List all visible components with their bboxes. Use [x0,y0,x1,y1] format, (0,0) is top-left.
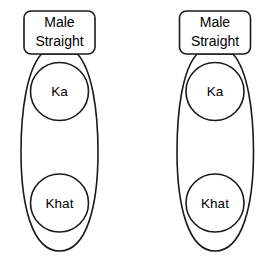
group-left-label-line2: Straight [35,33,83,49]
group-left-label-line1: Male [44,14,75,30]
left-node-khat-label: Khat [46,196,74,211]
right-node-ka-label: Ka [207,84,224,99]
left-node-ka-label: Ka [51,84,68,99]
group-right-label-line2: Straight [191,33,239,49]
right-node-khat-label: Khat [201,196,229,211]
group-right-label-line1: Male [200,14,231,30]
group-left[interactable]: Ka Khat Male Straight [21,11,98,251]
diagram-svg: Ka Khat Male Straight Ka Khat Male Strai… [0,0,276,271]
diagram-canvas: Ka Khat Male Straight Ka Khat Male Strai… [0,0,276,271]
group-right[interactable]: Ka Khat Male Straight [177,11,254,251]
